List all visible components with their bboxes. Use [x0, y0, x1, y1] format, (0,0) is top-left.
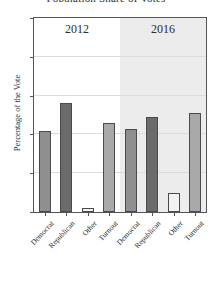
x-tick-mark-4 [131, 213, 132, 216]
x-tick-mark-6 [174, 213, 175, 216]
x-tick-mark-1 [66, 213, 67, 216]
x-tick-label-other-6: Other [166, 219, 184, 238]
x-tick-mark-3 [109, 213, 110, 216]
y-axis-label: Percentage of the Vote [12, 48, 22, 178]
y-tick-mark-20 [30, 173, 33, 174]
x-tick-mark-0 [45, 213, 46, 216]
x-tick-label-other-2: Other [80, 219, 98, 238]
x-axis-ticks: DemocratRepublicanOtherTurnoutDemocratRe… [33, 213, 207, 281]
y-tick-mark-100 [30, 18, 33, 19]
y-axis-ticks: 020406080100 [33, 17, 207, 213]
y-tick-mark-80 [30, 57, 33, 58]
y-tick-mark-60 [30, 96, 33, 97]
chart-title: Population Share of Votes [0, 0, 212, 2]
x-tick-mark-5 [152, 213, 153, 216]
x-tick-mark-2 [88, 213, 89, 216]
x-tick-mark-7 [195, 213, 196, 216]
y-tick-mark-40 [30, 134, 33, 135]
bar-chart-figure: Population Share of Votes Percentage of … [0, 0, 212, 281]
x-tick-label-turnout-7: Turnout [183, 219, 206, 243]
